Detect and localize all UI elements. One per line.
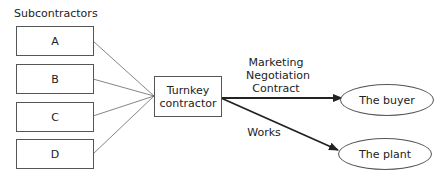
plant-node: The plant [338,138,432,170]
hub-label-line2: contractor [160,97,217,110]
edge-label-line: Contract [246,82,306,95]
subcontractor-label: B [51,73,59,86]
subcontractor-box-b: B [16,64,94,94]
edge-label-line: Marketing [246,56,306,69]
edge-label-line: Negotiation [246,69,306,82]
edge-label-line: Works [244,126,284,139]
target-label: The plant [359,148,411,161]
subcontractor-label: C [51,111,59,124]
buyer-edge-label: Marketing Negotiation Contract [246,56,306,95]
subcontractor-box-c: C [16,102,94,132]
subcontractor-box-a: A [16,26,94,56]
buyer-node: The buyer [340,84,434,116]
subcontractor-box-d: D [16,139,94,169]
plant-edge-label: Works [244,126,284,139]
target-label: The buyer [359,94,415,107]
subcontractors-group-label: Subcontractors [14,7,98,20]
subcontractor-label: D [51,148,59,161]
turnkey-contractor-box: Turnkey contractor [154,76,222,117]
hub-label-line1: Turnkey [167,84,210,97]
subcontractor-label: A [51,35,59,48]
